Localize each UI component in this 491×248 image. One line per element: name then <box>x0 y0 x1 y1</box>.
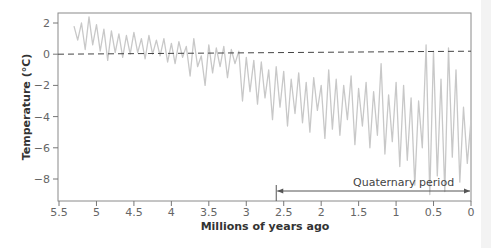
y-axis-ticks: 20−2−4−6−8 <box>34 17 58 186</box>
temperature-chart: 20−2−4−6−8 5.554.543.532.521.510.50 Temp… <box>0 0 491 248</box>
y-tick-label: −6 <box>34 142 50 155</box>
zero-reference-line <box>58 51 471 54</box>
x-tick-label: 5 <box>93 206 100 219</box>
temperature-series-line <box>74 17 471 195</box>
x-tick-label: 0.5 <box>425 206 443 219</box>
quaternary-period-annotation: Quaternary period <box>276 176 470 201</box>
x-tick-label: 4 <box>168 206 175 219</box>
quaternary-period-label: Quaternary period <box>353 176 454 189</box>
arrow-left-icon <box>277 189 283 194</box>
x-tick-label: 2 <box>318 206 325 219</box>
y-tick-label: 0 <box>43 48 50 61</box>
x-tick-label: 5.5 <box>50 206 68 219</box>
y-tick-label: −8 <box>34 173 50 186</box>
y-tick-label: 2 <box>43 17 50 30</box>
x-tick-label: 3 <box>243 206 250 219</box>
x-tick-label: 1.5 <box>350 206 368 219</box>
arrow-right-icon <box>464 189 470 194</box>
y-axis-title: Temperature (°C) <box>20 54 33 161</box>
x-axis-ticks: 5.554.543.532.521.510.50 <box>50 201 474 219</box>
y-tick-label: −4 <box>34 111 50 124</box>
x-tick-label: 1 <box>393 206 400 219</box>
x-axis-title: Millions of years ago <box>201 220 330 233</box>
x-tick-label: 2.5 <box>275 206 293 219</box>
y-tick-label: −2 <box>34 79 50 92</box>
x-tick-label: 3.5 <box>200 206 218 219</box>
x-tick-label: 4.5 <box>125 206 143 219</box>
x-tick-label: 0 <box>468 206 475 219</box>
